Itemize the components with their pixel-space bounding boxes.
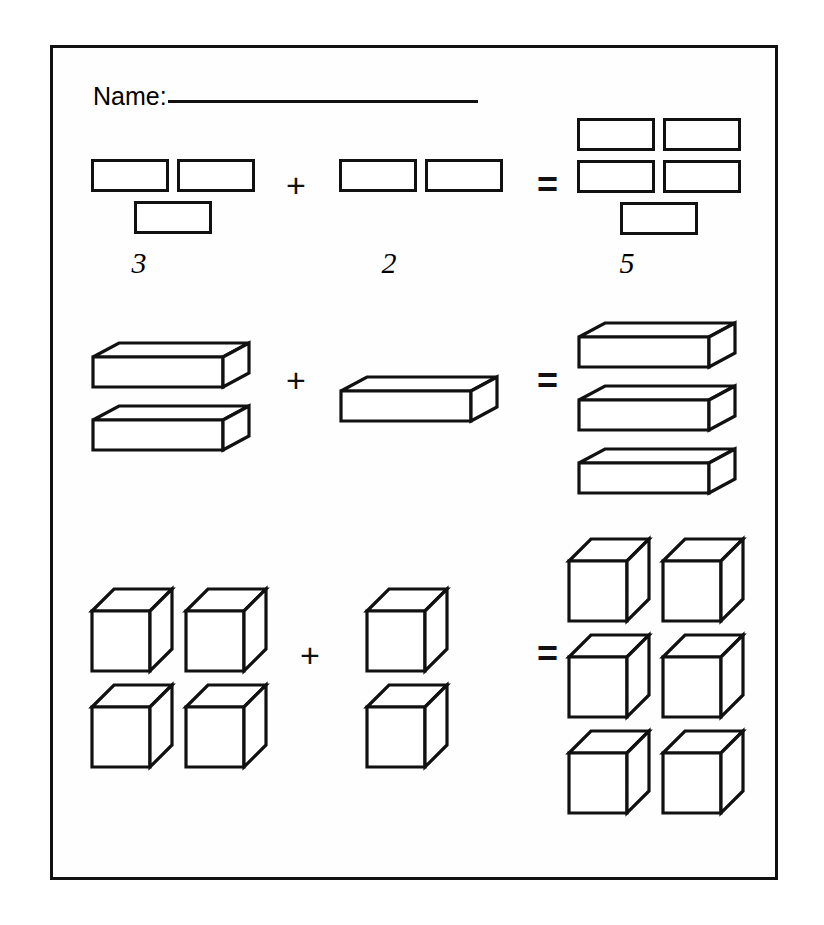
iso-cube	[566, 632, 654, 724]
problem-2-addend-a-answer[interactable]	[84, 468, 194, 500]
name-input-line[interactable]	[168, 100, 478, 103]
problem-2-addend-a-manipulatives	[91, 341, 251, 460]
flat-rect	[577, 160, 655, 193]
answer-text: 5	[572, 248, 682, 280]
flat-rect-line	[577, 202, 741, 235]
flat-rect	[663, 160, 741, 193]
plus-operator: +	[286, 168, 306, 202]
flat-rect-line	[91, 201, 255, 234]
problem-3-addend-a-answer[interactable]	[84, 806, 194, 838]
problem-3-sum-answer[interactable]	[572, 806, 682, 838]
flat-rect	[339, 159, 417, 192]
flat-rect	[425, 159, 503, 192]
name-label: Name:	[93, 82, 167, 111]
iso-bar	[577, 321, 737, 377]
flat-rect-line	[91, 159, 255, 192]
equals-operator: =	[537, 167, 558, 203]
worksheet-page: Name: + =	[50, 45, 778, 880]
flat-rect-line	[339, 159, 503, 192]
flat-rect	[663, 118, 741, 151]
answer-text: 3	[84, 248, 194, 280]
equals-operator: =	[537, 636, 558, 672]
problem-2-addend-b-answer[interactable]	[334, 468, 444, 500]
problem-3-addend-b-answer[interactable]	[334, 806, 444, 838]
problem-2-sum-answer[interactable]	[572, 468, 682, 500]
iso-cube	[89, 682, 177, 774]
equals-operator: =	[537, 363, 558, 399]
name-field-row: Name:	[93, 82, 478, 111]
iso-cube	[660, 536, 748, 628]
flat-rect	[620, 202, 698, 235]
iso-bar	[91, 341, 251, 397]
problem-3-sum-manipulatives	[566, 536, 748, 820]
flat-rect-line	[577, 160, 741, 193]
answer-text: 2	[334, 248, 444, 280]
plus-operator: +	[300, 638, 320, 672]
flat-rect	[577, 118, 655, 151]
iso-bar	[339, 375, 499, 431]
problem-row-2: + =	[53, 313, 775, 513]
iso-cube	[660, 632, 748, 724]
iso-bar	[577, 384, 737, 440]
iso-bar	[91, 404, 251, 460]
flat-rect	[91, 159, 169, 192]
problem-2-addend-b-manipulatives	[339, 375, 499, 431]
iso-cube	[364, 586, 452, 678]
flat-rect	[134, 201, 212, 234]
problem-1-addend-b-answer[interactable]: 2	[334, 248, 444, 280]
iso-cube	[183, 682, 271, 774]
iso-cube	[89, 586, 177, 678]
plus-operator: +	[286, 363, 306, 397]
iso-cube	[566, 536, 654, 628]
problem-1-addend-a-manipulatives	[91, 159, 255, 234]
problem-row-3: + =	[53, 528, 775, 858]
problem-3-addend-b-manipulatives	[364, 586, 452, 774]
iso-cube	[364, 682, 452, 774]
problem-3-addend-a-manipulatives	[89, 586, 271, 774]
flat-rect-line	[577, 118, 741, 151]
problem-1-sum-manipulatives	[577, 118, 741, 235]
iso-cube	[183, 586, 271, 678]
problem-row-1: + =	[53, 123, 775, 323]
problem-1-sum-answer[interactable]: 5	[572, 248, 682, 280]
flat-rect	[177, 159, 255, 192]
problem-1-addend-a-answer[interactable]: 3	[84, 248, 194, 280]
problem-1-addend-b-manipulatives	[339, 159, 503, 192]
